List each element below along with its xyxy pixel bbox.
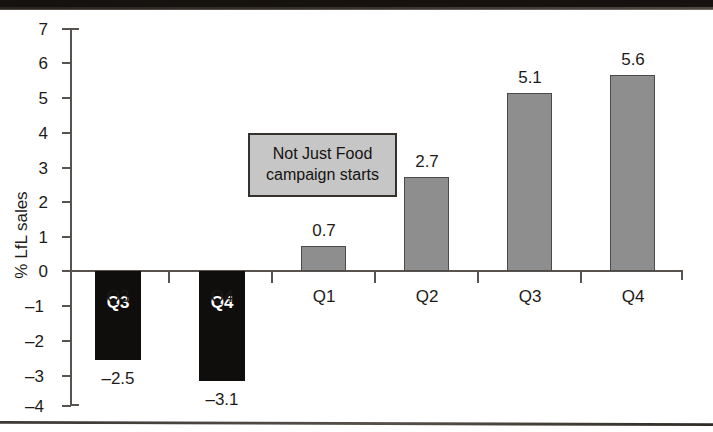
x-tick-label-0: Q3 (78, 288, 158, 305)
y-tick-1 (62, 236, 71, 238)
y-tick-2 (62, 201, 71, 203)
x-axis-zero-line (70, 270, 683, 272)
y-tick-3 (62, 167, 71, 169)
callout-line-2: campaign starts (266, 167, 379, 184)
y-tick-label-neg4: –4 (18, 398, 44, 415)
y-tick-5 (62, 97, 71, 99)
y-tick-label-6: 6 (22, 55, 48, 72)
y-tick-neg3 (62, 375, 71, 377)
y-axis-top-cap (70, 28, 79, 30)
bar-q3-negative[interactable]: Q3 (95, 271, 141, 360)
y-tick-neg1 (62, 305, 71, 307)
y-tick-6 (62, 62, 71, 64)
x-tick-2 (271, 272, 273, 283)
bar-q2-positive[interactable] (404, 177, 449, 271)
campaign-start-callout: Not Just Food campaign starts (248, 133, 397, 197)
x-tick-1 (168, 272, 170, 283)
x-tick-label-5: Q4 (593, 288, 673, 305)
y-tick-label-4: 4 (22, 125, 48, 142)
y-tick-neg2 (62, 340, 71, 342)
x-tick-5 (580, 272, 582, 283)
y-tick-4 (62, 132, 71, 134)
y-axis-bottom-cap (70, 404, 79, 406)
x-tick-label-4: Q3 (490, 288, 570, 305)
y-tick-label-5: 5 (22, 90, 48, 107)
bar-q3-positive[interactable] (507, 93, 552, 271)
callout-line-1: Not Just Food (273, 146, 373, 163)
y-axis-title: % LfL sales (12, 155, 32, 315)
y-axis-line (70, 28, 72, 406)
x-tick-label-3: Q2 (387, 288, 467, 305)
x-axis-end-cap (681, 270, 683, 280)
value-label-q4-positive: 5.6 (593, 51, 673, 68)
y-tick-label-neg3: –3 (18, 368, 44, 385)
chart-figure: 7 6 5 4 3 2 1 0 –1 –2 –3 –4 % LfL sales … (0, 0, 713, 432)
y-tick-label-7: 7 (22, 21, 48, 38)
y-tick-7 (62, 28, 71, 30)
x-tick-label-2: Q1 (284, 288, 364, 305)
y-tick-neg4 (62, 405, 71, 407)
bar-q1-positive[interactable] (301, 246, 346, 271)
x-tick-4 (477, 272, 479, 283)
value-label-q2: 2.7 (387, 153, 467, 170)
value-label-q1: 0.7 (284, 222, 364, 239)
value-label-q3-positive: 5.1 (490, 69, 570, 86)
value-label-q3-negative: –2.5 (78, 370, 158, 387)
bar-q4-positive[interactable] (610, 75, 655, 271)
x-tick-3 (374, 272, 376, 283)
x-tick-label-1: Q4 (182, 288, 262, 305)
y-tick-label-neg2: –2 (18, 333, 44, 350)
bar-chart-plot-area: 7 6 5 4 3 2 1 0 –1 –2 –3 –4 % LfL sales … (0, 0, 713, 432)
value-label-q4-negative: –3.1 (182, 391, 262, 408)
